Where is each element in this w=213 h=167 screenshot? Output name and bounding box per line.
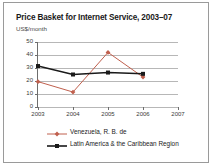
- x-tick-label-2005: 2005: [93, 111, 123, 117]
- x-tick-label-2007: 2007: [163, 111, 193, 117]
- chart-title: Price Basket for Internet Service, 2003–…: [16, 13, 172, 22]
- chart-subtitle-units: US$/month: [16, 25, 47, 32]
- legend-item-venezuela-r-b-de[interactable]: Venezuela, R. B. de: [46, 126, 206, 138]
- legend-marker-diamond-icon: [46, 126, 68, 138]
- chart-legend: Venezuela, R. B. deLatin America & the C…: [46, 126, 206, 150]
- y-tick-label-0: 0: [17, 103, 33, 109]
- y-tick-label-20: 20: [17, 77, 33, 83]
- series-line-venezuela-r-b-de: [38, 52, 143, 92]
- data-point-latin-america-the-caribbean-region-2006: [141, 72, 145, 76]
- legend-item-latin-america-the-caribbean-region[interactable]: Latin America & the Caribbean Region: [46, 138, 206, 150]
- y-tick-label-30: 30: [17, 64, 33, 70]
- series-lines: [38, 42, 178, 108]
- data-point-latin-america-the-caribbean-region-2003: [36, 64, 40, 68]
- legend-marker-square-icon: [46, 138, 68, 150]
- x-tick-mark-2007: [178, 107, 179, 110]
- legend-label: Venezuela, R. B. de: [70, 128, 127, 135]
- y-tick-label-40: 40: [17, 51, 33, 57]
- x-tick-label-2003: 2003: [23, 111, 53, 117]
- y-tick-label-10: 10: [17, 90, 33, 96]
- legend-label: Latin America & the Caribbean Region: [70, 140, 179, 147]
- data-point-latin-america-the-caribbean-region-2005: [106, 71, 110, 75]
- plot-area: 01020304050 20032004200520062007: [38, 42, 178, 107]
- y-tick-label-50: 50: [17, 38, 33, 44]
- chart-figure: Price Basket for Internet Service, 2003–…: [0, 0, 213, 167]
- data-point-latin-america-the-caribbean-region-2004: [71, 73, 75, 77]
- series-line-latin-america-the-caribbean-region: [38, 66, 143, 74]
- x-tick-label-2006: 2006: [128, 111, 158, 117]
- x-tick-label-2004: 2004: [58, 111, 88, 117]
